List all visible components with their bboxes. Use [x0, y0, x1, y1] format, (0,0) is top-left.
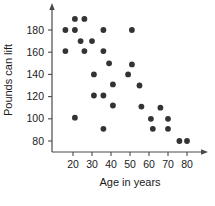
- x-tick-label: 80: [181, 158, 193, 170]
- data-points-layer: [63, 16, 190, 144]
- x-tick-label: 30: [86, 158, 98, 170]
- x-tick-label: 20: [67, 158, 79, 170]
- y-axis-ticks: 80100120140160180: [26, 24, 52, 147]
- axes-group: [49, 3, 208, 155]
- y-tick-label: 160: [26, 46, 44, 58]
- data-point: [158, 105, 164, 111]
- data-point: [110, 103, 116, 109]
- data-point: [125, 72, 131, 78]
- data-point: [91, 93, 97, 99]
- data-point: [101, 93, 107, 99]
- data-point: [78, 38, 84, 44]
- data-point: [106, 60, 112, 66]
- data-point: [129, 62, 135, 68]
- x-axis-arrowhead: [201, 149, 208, 154]
- chart-canvas: 80100120140160180 20304050607080 Age in …: [0, 0, 215, 206]
- data-point: [82, 16, 88, 22]
- data-point: [165, 116, 171, 122]
- data-point: [72, 115, 78, 121]
- data-point: [101, 27, 107, 33]
- x-tick-label: 70: [162, 158, 174, 170]
- data-point: [101, 48, 107, 54]
- y-axis-arrowhead: [49, 3, 54, 10]
- y-tick-label: 140: [26, 68, 44, 80]
- data-point: [91, 72, 97, 78]
- x-axis-ticks: 20304050607080: [67, 152, 193, 170]
- scatter-plot-figure: 80100120140160180 20304050607080 Age in …: [0, 0, 215, 206]
- data-point: [129, 27, 135, 33]
- y-tick-label: 100: [26, 112, 44, 124]
- y-tick-label: 180: [26, 24, 44, 36]
- data-point: [177, 138, 183, 144]
- data-point: [72, 27, 78, 33]
- data-point: [101, 126, 107, 132]
- data-point: [184, 138, 190, 144]
- x-tick-label: 40: [105, 158, 117, 170]
- data-point: [137, 83, 143, 89]
- x-axis-title: Age in years: [99, 176, 161, 188]
- data-point: [139, 104, 145, 110]
- data-point: [82, 48, 88, 54]
- x-tick-label: 60: [143, 158, 155, 170]
- x-tick-label: 50: [124, 158, 136, 170]
- data-point: [110, 81, 116, 87]
- data-point: [148, 116, 154, 122]
- data-point: [63, 48, 69, 54]
- data-point: [165, 126, 171, 132]
- y-tick-label: 80: [32, 135, 44, 147]
- data-point: [63, 27, 69, 33]
- y-axis-title: Pounds can lift: [2, 44, 14, 116]
- y-tick-label: 120: [26, 90, 44, 102]
- data-point: [89, 38, 95, 44]
- data-point: [72, 16, 78, 22]
- data-point: [150, 126, 156, 132]
